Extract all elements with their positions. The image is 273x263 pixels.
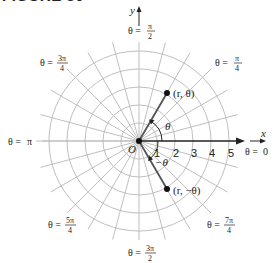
svg-text:3π: 3π xyxy=(146,244,154,253)
x-axis-label: x xyxy=(260,127,266,139)
svg-text:2: 2 xyxy=(148,32,152,41)
figure-header: FIGURE 30 xyxy=(2,0,84,4)
label-theta-3pi-4: θ = 3π 4 xyxy=(40,54,68,73)
label-theta-pi-4: θ = π 4 xyxy=(215,54,242,73)
y-axis-label: y xyxy=(129,4,135,16)
y-axis xyxy=(137,6,142,26)
label-theta-pi-2: θ = π 2 xyxy=(128,22,155,41)
svg-text:4: 4 xyxy=(68,226,72,235)
svg-text:π: π xyxy=(235,54,239,63)
label-theta-0: θ = 0 xyxy=(245,146,268,157)
svg-text:θ =: θ = xyxy=(215,57,228,68)
svg-text:π: π xyxy=(27,136,32,147)
svg-text:θ =: θ = xyxy=(128,25,141,36)
tick-5: 5 xyxy=(228,147,234,159)
label-theta-3pi-2: θ = 3π 2 xyxy=(128,244,156,263)
tick-2: 2 xyxy=(173,147,179,159)
svg-text:θ =: θ = xyxy=(40,57,53,68)
neg-theta-arc-label: −θ xyxy=(155,156,168,168)
svg-text:4: 4 xyxy=(60,64,64,73)
svg-text:θ =: θ = xyxy=(48,219,61,230)
svg-text:5π: 5π xyxy=(66,216,74,225)
point-r-theta xyxy=(164,90,170,96)
polar-diagram: x y 1 2 3 4 5 θ −θ O (r, θ) (r, xyxy=(0,0,273,263)
theta-arc-label: θ xyxy=(165,120,171,132)
tick-3: 3 xyxy=(191,147,197,159)
svg-text:θ =: θ = xyxy=(8,136,21,147)
origin-label: O xyxy=(128,143,136,155)
tick-4: 4 xyxy=(209,147,215,159)
origin-point xyxy=(136,138,142,144)
svg-text:4: 4 xyxy=(227,226,231,235)
svg-text:3π: 3π xyxy=(58,54,66,63)
svg-text:2: 2 xyxy=(148,254,152,263)
svg-text:7π: 7π xyxy=(225,216,233,225)
label-theta-5pi-4: θ = 5π 4 xyxy=(48,216,76,235)
point-r-neg-theta xyxy=(164,186,170,192)
point-r-neg-theta-label: (r, −θ) xyxy=(173,184,201,197)
svg-text:θ =: θ = xyxy=(245,146,258,157)
label-theta-pi: θ = π xyxy=(8,136,32,147)
polar-figure: FIGURE 30 xyxy=(0,0,273,263)
svg-text:π: π xyxy=(148,22,152,31)
svg-text:0: 0 xyxy=(263,146,268,157)
svg-text:4: 4 xyxy=(235,64,239,73)
label-theta-7pi-4: θ = 7π 4 xyxy=(207,216,235,235)
svg-text:θ =: θ = xyxy=(128,247,141,258)
point-r-theta-label: (r, θ) xyxy=(173,87,195,100)
svg-text:θ =: θ = xyxy=(207,219,220,230)
